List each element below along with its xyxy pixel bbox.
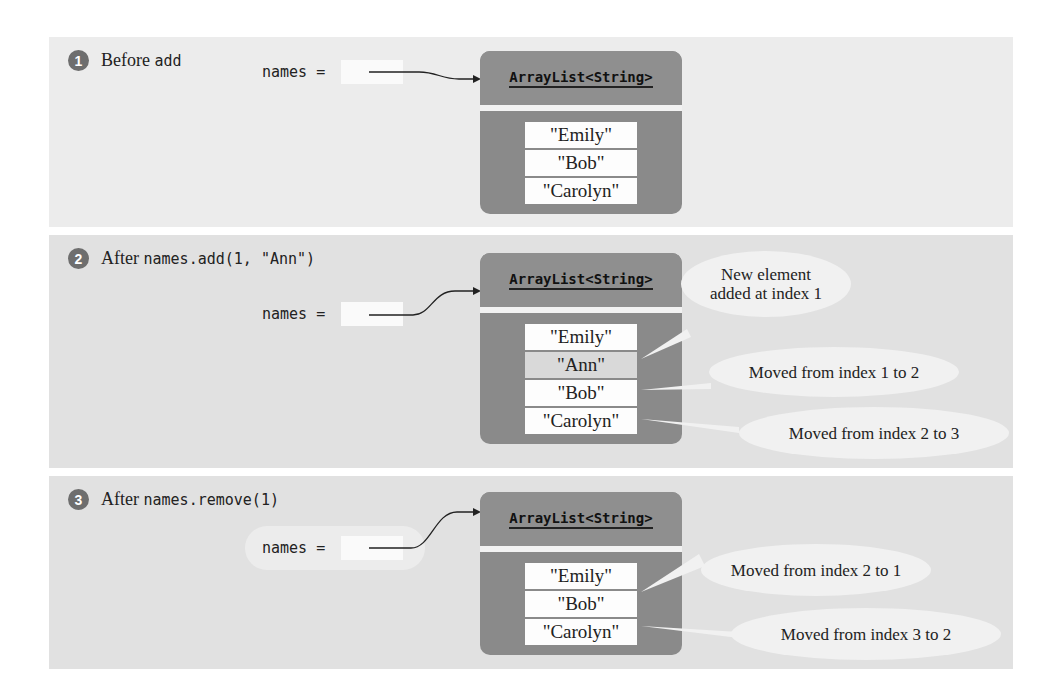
step-3-label-code: names.remove(1): [143, 491, 278, 509]
callout-text: Moved from index 2 to 3: [789, 424, 959, 443]
step-3-number-badge: 3: [68, 489, 89, 510]
step-3-callout-moved-carolyn: Moved from index 3 to 2: [731, 608, 1001, 660]
list-element: "Carolyn": [525, 178, 637, 204]
step-1-elements: "Emily" "Bob" "Carolyn": [480, 111, 682, 214]
step-3-variable-name: names =: [262, 539, 325, 557]
list-element-inserted: "Ann": [525, 352, 637, 380]
step-1-variable-name: names =: [262, 63, 325, 81]
callout-line: added at index 1: [710, 284, 822, 303]
step-1-label: Before add: [101, 50, 182, 71]
step-3-arraylist-type: ArrayList<String>: [509, 510, 652, 529]
step-2-label-text: After: [101, 248, 139, 268]
list-element: "Carolyn": [525, 619, 637, 645]
step-3-panel: 3 After names.remove(1) names = ArrayLis…: [49, 476, 1013, 669]
step-2-number-badge: 2: [68, 248, 89, 269]
callout-line: New element: [710, 265, 822, 284]
step-2-variable-name: names =: [262, 305, 325, 323]
step-1-label-code: add: [154, 52, 181, 70]
step-2-arraylist-type: ArrayList<String>: [509, 271, 652, 290]
callout-text: Moved from index 2 to 1: [731, 561, 901, 580]
list-element: "Carolyn": [525, 408, 637, 434]
list-element: "Emily": [525, 122, 637, 150]
step-3-label-text: After: [101, 489, 139, 509]
callout-text: Moved from index 3 to 2: [781, 625, 951, 644]
step-2-callout-moved-carolyn: Moved from index 2 to 3: [739, 407, 1009, 459]
step-3-reference-arrow-icon: [369, 502, 484, 552]
step-1-reference-arrow-icon: [369, 67, 484, 87]
step-1-header: 1 Before add: [68, 50, 182, 71]
step-1-panel: 1 Before add names = ArrayList<String> "…: [49, 37, 1013, 227]
step-1-arraylist-object: ArrayList<String> "Emily" "Bob" "Carolyn…: [480, 51, 682, 214]
step-2-header: 2 After names.add(1, "Ann"): [68, 248, 315, 269]
list-element: "Emily": [525, 324, 637, 352]
step-1-arraylist-type: ArrayList<String>: [509, 69, 652, 88]
list-element: "Emily": [525, 563, 637, 591]
step-2-label: After names.add(1, "Ann"): [101, 248, 315, 269]
step-2-callout-moved-bob: Moved from index 1 to 2: [709, 347, 959, 397]
callout-text: Moved from index 1 to 2: [749, 363, 919, 382]
step-1-label-text: Before: [101, 50, 150, 70]
step-3-callout-moved-bob: Moved from index 2 to 1: [701, 544, 931, 596]
list-element: "Bob": [525, 380, 637, 408]
step-2-label-code: names.add(1, "Ann"): [143, 250, 315, 268]
step-3-label: After names.remove(1): [101, 489, 279, 510]
step-1-number-badge: 1: [68, 50, 89, 71]
list-element: "Bob": [525, 150, 637, 178]
step-2-panel: 2 After names.add(1, "Ann") names = Arra…: [49, 235, 1013, 468]
step-3-header: 3 After names.remove(1): [68, 489, 279, 510]
step-2-reference-arrow-icon: [369, 283, 484, 323]
step-2-callout-new-element: New element added at index 1: [681, 251, 851, 317]
list-element: "Bob": [525, 591, 637, 619]
